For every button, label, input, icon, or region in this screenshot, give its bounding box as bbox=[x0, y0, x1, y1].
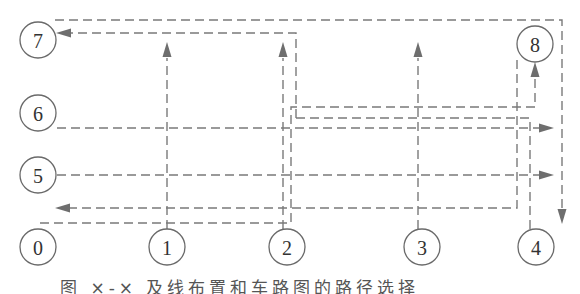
node-label: 6 bbox=[33, 103, 43, 125]
route-to-node-7 bbox=[64, 33, 296, 118]
node-label: 5 bbox=[33, 165, 43, 187]
node-3: 3 bbox=[404, 229, 440, 265]
arrow-right-icon bbox=[539, 171, 554, 180]
node-label: 0 bbox=[33, 237, 43, 259]
arrows-layer bbox=[55, 29, 567, 225]
routes-layer bbox=[40, 20, 562, 229]
arrow-up-icon bbox=[163, 42, 172, 57]
node-2: 2 bbox=[269, 229, 305, 265]
arrow-left-icon bbox=[56, 29, 71, 38]
arrow-down-icon bbox=[558, 209, 567, 224]
arrow-up-icon bbox=[279, 42, 288, 57]
node-label: 1 bbox=[162, 237, 172, 259]
node-0: 0 bbox=[20, 229, 56, 265]
figure-caption: 图 ×-× 及线布置和车路图的路径选择 bbox=[60, 274, 560, 294]
nodes-layer: 012345678 bbox=[20, 22, 554, 265]
node-1: 1 bbox=[149, 229, 185, 265]
node-4: 4 bbox=[518, 229, 554, 265]
node-label: 8 bbox=[530, 34, 540, 56]
route-to-node-8 bbox=[40, 74, 535, 223]
arrow-left-icon bbox=[55, 204, 70, 213]
node-8: 8 bbox=[517, 26, 553, 62]
route-return-row bbox=[70, 60, 517, 208]
arrow-right-icon bbox=[539, 124, 554, 133]
node-label: 7 bbox=[33, 30, 43, 52]
node-label: 2 bbox=[282, 237, 292, 259]
node-label: 3 bbox=[417, 237, 427, 259]
route-top-loop bbox=[55, 20, 562, 220]
node-6: 6 bbox=[20, 95, 56, 131]
arrow-up-icon bbox=[414, 42, 423, 57]
arrow-up-icon bbox=[531, 62, 540, 77]
node-7: 7 bbox=[20, 22, 56, 58]
node-label: 4 bbox=[531, 237, 541, 259]
node-5: 5 bbox=[20, 157, 56, 193]
